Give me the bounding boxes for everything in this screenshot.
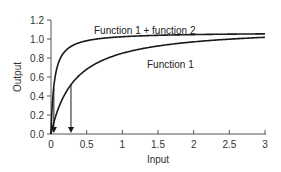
y-tick-label: 0.4 — [30, 91, 44, 102]
y-tick-label: 0.8 — [30, 53, 44, 64]
x-tick-label: 1.5 — [151, 139, 165, 150]
x-axis: 00.511.522.53 — [48, 130, 268, 150]
y-axis: 0.00.20.40.60.81.01.2 — [30, 15, 51, 140]
x-tick-label: 0 — [48, 139, 54, 150]
curve-function-1-plus-2 — [51, 34, 265, 134]
arrowhead-icon — [68, 127, 74, 133]
y-tick-label: 0.0 — [30, 129, 44, 140]
ec50-arrows — [51, 85, 74, 133]
label-function-1: Function 1 — [147, 59, 194, 70]
dose-response-chart: 0.00.20.40.60.81.01.2 00.511.522.53 Inpu… — [0, 0, 281, 172]
x-axis-title: Input — [147, 154, 169, 165]
x-tick-label: 1 — [120, 139, 126, 150]
x-tick-label: 0.5 — [80, 139, 94, 150]
curve-function-1 — [51, 37, 265, 134]
x-tick-label: 3 — [262, 139, 268, 150]
y-tick-label: 0.2 — [30, 110, 44, 121]
label-function-1-plus-2: Function 1 + function 2 — [94, 25, 196, 36]
y-tick-label: 1.2 — [30, 15, 44, 26]
x-tick-label: 2.5 — [222, 139, 236, 150]
y-tick-label: 0.6 — [30, 72, 44, 83]
y-axis-title: Output — [12, 62, 23, 92]
y-tick-label: 1.0 — [30, 34, 44, 45]
x-tick-label: 2 — [191, 139, 197, 150]
